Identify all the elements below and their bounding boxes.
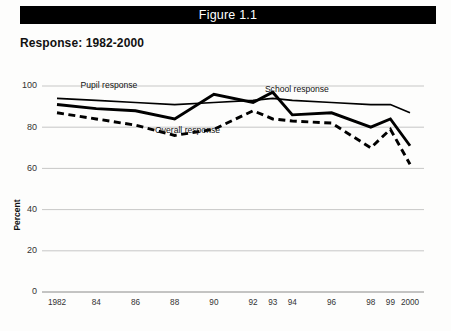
x-tick-94: 94 — [288, 298, 298, 307]
x-tick-92: 92 — [249, 298, 259, 307]
x-tick-84: 84 — [92, 298, 102, 307]
x-axis-tick-labels: 1982848688909293949698992000 — [48, 298, 420, 307]
x-tick-86: 86 — [131, 298, 141, 307]
y-tick-0: 0 — [32, 286, 37, 296]
x-tick-99: 99 — [386, 298, 396, 307]
data-series — [57, 92, 410, 164]
annotation-overall-response: Overall response — [155, 125, 220, 135]
annotation-pupil-response: Pupil response — [81, 80, 138, 90]
chart-plot-area: 020406080100 198284868890929394969899200… — [0, 0, 451, 331]
gridlines — [42, 86, 424, 292]
annotation-school-response: School response — [265, 84, 329, 94]
y-tick-40: 40 — [27, 204, 37, 214]
figure-container: Figure 1.1 Response: 1982-2000 020406080… — [0, 0, 451, 331]
y-axis-title: Percent — [12, 199, 22, 230]
x-tick-1982: 1982 — [48, 298, 67, 307]
x-tick-98: 98 — [366, 298, 376, 307]
series-overall-response — [57, 111, 410, 165]
y-tick-100: 100 — [22, 80, 37, 90]
x-tick-88: 88 — [170, 298, 180, 307]
x-tick-2000: 2000 — [401, 298, 420, 307]
x-tick-93: 93 — [268, 298, 278, 307]
line-chart: 020406080100 198284868890929394969899200… — [0, 0, 451, 331]
y-tick-80: 80 — [27, 122, 37, 132]
y-tick-60: 60 — [27, 163, 37, 173]
y-axis-tick-labels: 020406080100 — [22, 80, 37, 296]
x-tick-90: 90 — [209, 298, 219, 307]
x-tick-96: 96 — [327, 298, 337, 307]
y-tick-20: 20 — [27, 245, 37, 255]
